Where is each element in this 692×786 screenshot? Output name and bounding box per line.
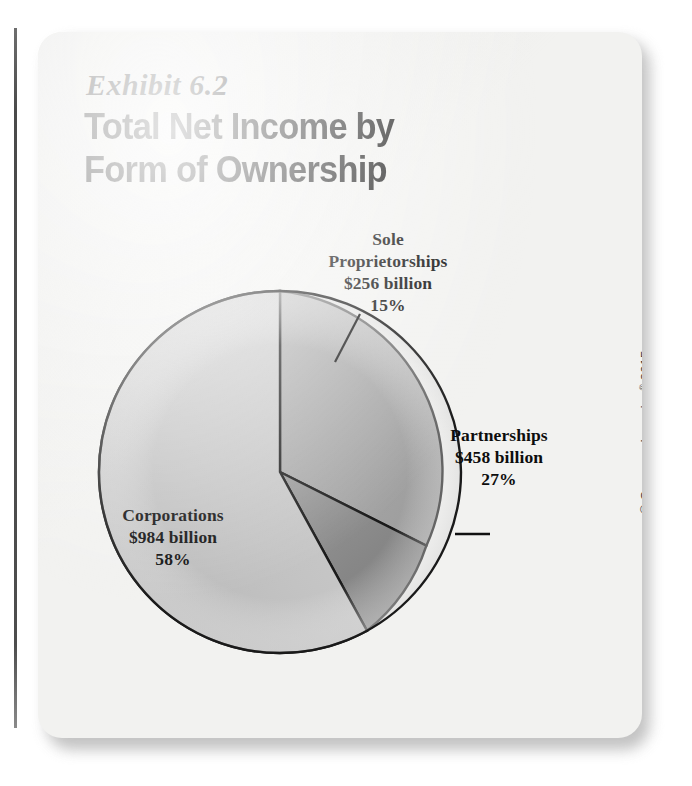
callout-partnerships-name: Partnerships — [394, 424, 604, 446]
copyright-text: Cengage Learning — [638, 390, 642, 504]
callout-partnerships-percent: 27% — [394, 468, 604, 490]
callout-corporations-amount: $984 billion — [68, 526, 278, 548]
callout-sole-name-line-1: Sole — [288, 228, 488, 250]
callout-partnerships-amount: $458 billion — [394, 446, 604, 468]
callout-sole-amount: $256 billion — [288, 272, 488, 294]
callout-partnerships: Partnerships $458 billion 27% — [394, 424, 604, 490]
page-gutter-rule — [14, 28, 17, 728]
callout-corporations: Corporations $984 billion 58% — [68, 504, 278, 570]
callout-corporations-name: Corporations — [68, 504, 278, 526]
exhibit-card: Exhibit 6.2 Total Net Income by Form of … — [38, 32, 642, 738]
callout-corporations-percent: 58% — [68, 548, 278, 570]
callout-sole-proprietorships: Sole Proprietorships $256 billion 15% — [288, 228, 488, 316]
pie-chart: Sole Proprietorships $256 billion 15% Pa… — [38, 32, 642, 738]
copyright-year: 2015 — [638, 351, 642, 385]
registered-mark-icon: ® — [638, 384, 642, 390]
copyright-notice: © Cengage Learning® 2015 — [638, 351, 642, 514]
copyright-symbol: © — [638, 504, 642, 514]
callout-sole-name-line-2: Proprietorships — [288, 250, 488, 272]
scanned-page: Exhibit 6.2 Total Net Income by Form of … — [0, 0, 692, 786]
callout-sole-percent: 15% — [288, 294, 488, 316]
